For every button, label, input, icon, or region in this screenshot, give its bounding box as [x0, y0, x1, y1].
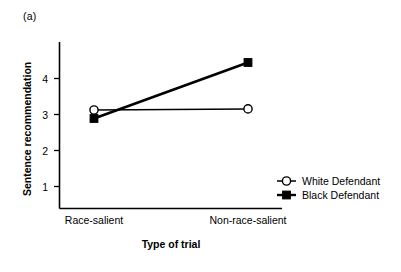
- chart-legend: White Defendant Black Defendant: [277, 175, 380, 201]
- x-axis-title: Type of trial: [142, 238, 201, 250]
- data-point-black-non-race-salient: [244, 59, 252, 67]
- data-point-white-non-race-salient: [244, 105, 252, 113]
- y-tick-label-4: 4: [42, 73, 48, 85]
- legend-marker-open-circle-icon: [282, 177, 290, 185]
- y-tick-label-3: 3: [42, 109, 48, 121]
- x-category-label-race-salient: Race-salient: [65, 214, 123, 226]
- legend-marker-filled-square-icon: [283, 191, 291, 199]
- legend-label-white-defendant: White Defendant: [302, 175, 380, 187]
- y-tick-label-1: 1: [42, 181, 48, 193]
- line-chart: 4 3 2 1 Sentence recommendation Race-sal…: [0, 0, 401, 272]
- data-point-white-race-salient: [90, 106, 98, 114]
- y-tick-label-2: 2: [42, 145, 48, 157]
- figure-panel-a: (a) 4 3 2 1 Sentence recommendation Race…: [0, 0, 401, 272]
- y-axis-title: Sentence recommendation: [21, 62, 33, 196]
- data-point-black-race-salient: [90, 115, 98, 123]
- legend-label-black-defendant: Black Defendant: [302, 189, 379, 201]
- x-category-label-non-race-salient: Non-race-salient: [209, 214, 286, 226]
